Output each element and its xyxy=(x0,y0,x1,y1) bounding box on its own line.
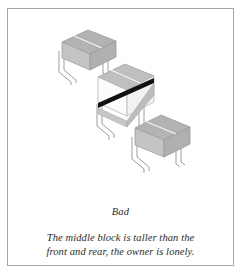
caption-block: Bad The middle block is taller than the … xyxy=(8,205,233,258)
caption-line-1: The middle block is taller than the xyxy=(26,231,215,245)
figure-label: Bad xyxy=(8,205,233,218)
caption-line-2: front and rear, the owner is lonely. xyxy=(26,245,215,259)
figure-page: Bad The middle block is taller than the … xyxy=(0,0,242,275)
illustration-area xyxy=(8,9,233,204)
front-block xyxy=(132,115,190,173)
isometric-blocks-illustration xyxy=(8,9,233,204)
figure-caption: The middle block is taller than the fron… xyxy=(8,231,233,258)
figure-frame: Bad The middle block is taller than the … xyxy=(7,8,234,266)
